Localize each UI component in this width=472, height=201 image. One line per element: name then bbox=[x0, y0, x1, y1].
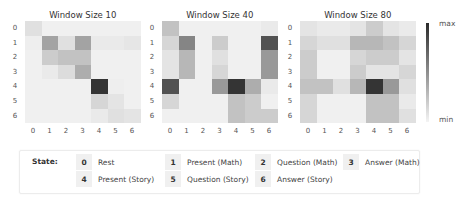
x-tick-label: 5 bbox=[245, 127, 261, 135]
heatmap-cell-5-3 bbox=[75, 94, 92, 109]
heatmap-cell-1-4 bbox=[91, 36, 108, 51]
heatmap-cell-3-3 bbox=[75, 65, 92, 80]
legend-item-2: 2 Question (Math) bbox=[255, 154, 338, 170]
heatmap-cell-0-4 bbox=[366, 21, 383, 36]
x-tick-label: 4 bbox=[91, 127, 107, 135]
legend-item-4: 4 Present (Story) bbox=[76, 171, 154, 187]
legend-item-3: 3 Answer (Math) bbox=[343, 154, 420, 170]
heatmap-cell-1-5 bbox=[245, 36, 262, 51]
legend-item-1: 1 Present (Math) bbox=[165, 154, 242, 170]
heatmap-cell-3-6 bbox=[261, 65, 278, 80]
heatmap-cell-3-1 bbox=[42, 65, 59, 80]
heatmap-title: Window Size 40 bbox=[162, 10, 278, 20]
legend-item-6: 6 Answer (Story) bbox=[255, 171, 333, 187]
heatmap-cell-0-3 bbox=[75, 21, 92, 36]
heatmap-cell-4-3 bbox=[75, 79, 92, 94]
heatmap-cell-1-2 bbox=[58, 36, 75, 51]
heatmap-cell-6-4 bbox=[366, 109, 383, 124]
y-tick-label: 2 bbox=[147, 53, 157, 61]
heatmap-cell-0-1 bbox=[42, 21, 59, 36]
heatmap-cell-4-1 bbox=[317, 79, 334, 94]
x-tick-label: 3 bbox=[212, 127, 228, 135]
heatmap-cell-2-3 bbox=[212, 50, 229, 65]
heatmap-cell-3-1 bbox=[179, 65, 196, 80]
heatmap-cell-2-5 bbox=[108, 50, 125, 65]
x-tick-label: 6 bbox=[124, 127, 140, 135]
y-tick-label: 6 bbox=[285, 112, 295, 120]
heatmap-cell-3-2 bbox=[58, 65, 75, 80]
heatmap-cell-2-0 bbox=[162, 50, 179, 65]
colorbar-min-label: min bbox=[439, 115, 453, 124]
heatmap-cell-3-5 bbox=[108, 65, 125, 80]
heatmap-cell-1-4 bbox=[228, 36, 245, 51]
heatmap-cell-1-2 bbox=[333, 36, 350, 51]
heatmap-cell-5-3 bbox=[350, 94, 367, 109]
heatmap-cell-4-0 bbox=[25, 79, 42, 94]
y-tick-label: 0 bbox=[10, 24, 20, 32]
heatmap-cell-4-6 bbox=[124, 79, 141, 94]
heatmap-cell-0-2 bbox=[333, 21, 350, 36]
x-tick-label: 0 bbox=[162, 127, 178, 135]
heatmap-cell-2-5 bbox=[383, 50, 400, 65]
y-tick-label: 3 bbox=[10, 68, 20, 76]
heatmap-cell-6-3 bbox=[212, 109, 229, 124]
heatmap-cell-6-0 bbox=[162, 109, 179, 124]
heatmap-cell-6-5 bbox=[383, 109, 400, 124]
heatmap-cell-0-4 bbox=[228, 21, 245, 36]
x-tick-label: 2 bbox=[58, 127, 74, 135]
heatmap-cell-2-2 bbox=[58, 50, 75, 65]
heatmap-cell-5-3 bbox=[212, 94, 229, 109]
heatmap-cell-6-3 bbox=[350, 109, 367, 124]
heatmap-cell-6-5 bbox=[245, 109, 262, 124]
y-tick-label: 1 bbox=[10, 39, 20, 47]
heatmap-grid bbox=[162, 21, 278, 123]
heatmap-cell-4-0 bbox=[300, 79, 317, 94]
heatmap-cell-3-3 bbox=[350, 65, 367, 80]
heatmap-cell-4-1 bbox=[42, 79, 59, 94]
x-tick-label: 1 bbox=[179, 127, 195, 135]
legend-label: Present (Math) bbox=[187, 158, 242, 167]
heatmap-cell-1-3 bbox=[75, 36, 92, 51]
heatmap-cell-2-2 bbox=[195, 50, 212, 65]
heatmap-cell-2-6 bbox=[124, 50, 141, 65]
heatmap-cell-6-1 bbox=[317, 109, 334, 124]
colorbar-max-label: max bbox=[439, 19, 455, 28]
heatmap-cell-4-5 bbox=[383, 79, 400, 94]
legend-label: Answer (Story) bbox=[277, 175, 333, 184]
heatmap-cell-3-4 bbox=[366, 65, 383, 80]
heatmap-cell-5-4 bbox=[228, 94, 245, 109]
y-tick-label: 2 bbox=[10, 53, 20, 61]
heatmap-cell-0-5 bbox=[383, 21, 400, 36]
x-tick-label: 0 bbox=[300, 127, 316, 135]
x-tick-label: 4 bbox=[366, 127, 382, 135]
legend-num: 4 bbox=[76, 171, 92, 187]
x-tick-label: 2 bbox=[333, 127, 349, 135]
heatmap-cell-0-6 bbox=[399, 21, 416, 36]
legend-num: 0 bbox=[76, 154, 92, 170]
heatmap-cell-0-0 bbox=[162, 21, 179, 36]
heatmap-cell-5-6 bbox=[399, 94, 416, 109]
heatmap-cell-1-0 bbox=[25, 36, 42, 51]
heatmap-cell-5-1 bbox=[179, 94, 196, 109]
y-tick-label: 5 bbox=[147, 97, 157, 105]
heatmap-grid bbox=[25, 21, 141, 123]
heatmap-cell-2-2 bbox=[333, 50, 350, 65]
heatmap-cell-0-0 bbox=[300, 21, 317, 36]
heatmap-cell-5-5 bbox=[383, 94, 400, 109]
heatmap-cell-5-5 bbox=[108, 94, 125, 109]
x-tick-label: 2 bbox=[195, 127, 211, 135]
heatmap-cell-5-0 bbox=[300, 94, 317, 109]
heatmap-cell-2-4 bbox=[91, 50, 108, 65]
heatmap-cell-3-0 bbox=[300, 65, 317, 80]
heatmap-cell-3-6 bbox=[399, 65, 416, 80]
heatmap-cell-0-2 bbox=[58, 21, 75, 36]
x-tick-label: 1 bbox=[42, 127, 58, 135]
heatmap-cell-6-2 bbox=[195, 109, 212, 124]
heatmap-cell-1-6 bbox=[261, 36, 278, 51]
heatmap-cell-6-5 bbox=[108, 109, 125, 124]
heatmap-cell-4-6 bbox=[399, 79, 416, 94]
heatmap-cell-1-3 bbox=[350, 36, 367, 51]
heatmap-cell-4-1 bbox=[179, 79, 196, 94]
heatmap-cell-6-6 bbox=[124, 109, 141, 124]
heatmap-cell-5-5 bbox=[245, 94, 262, 109]
